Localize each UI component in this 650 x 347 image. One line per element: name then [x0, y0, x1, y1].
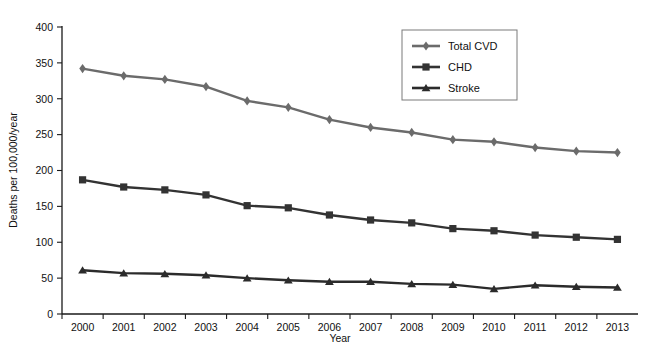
x-tick-label: 2010: [482, 321, 506, 333]
y-tick-label: 100: [35, 236, 53, 248]
data-point-marker: [203, 82, 210, 91]
data-point-marker: [161, 186, 168, 193]
data-point-marker: [285, 103, 292, 112]
data-point-marker: [244, 202, 251, 209]
x-tick-label: 2000: [71, 321, 95, 333]
data-point-marker: [614, 236, 621, 243]
x-tick-label: 2009: [441, 321, 465, 333]
x-tick-label: 2005: [277, 321, 301, 333]
y-tick-label: 200: [35, 164, 53, 176]
y-tick-label: 50: [41, 272, 53, 284]
data-point-marker: [120, 183, 127, 190]
data-point-marker: [450, 135, 457, 144]
series-chd: [79, 176, 621, 243]
series-stroke: [78, 266, 622, 292]
data-point-marker: [79, 64, 86, 73]
data-point-marker: [449, 225, 456, 232]
data-point-marker: [367, 216, 374, 223]
data-point-marker: [491, 137, 498, 146]
data-series-group: [78, 64, 622, 292]
x-tick-label: 2004: [235, 321, 259, 333]
data-point-marker: [285, 204, 292, 211]
data-point-marker: [244, 96, 251, 105]
data-point-marker: [79, 176, 86, 183]
y-tick-label: 350: [35, 57, 53, 69]
x-tick-label: 2012: [565, 321, 589, 333]
y-tick-label: 400: [35, 21, 53, 33]
legend-label: Total CVD: [448, 40, 498, 52]
data-point-marker: [408, 128, 415, 137]
series-total-cvd: [79, 64, 620, 157]
data-point-marker: [573, 147, 580, 156]
x-tick-label: 2002: [153, 321, 177, 333]
data-point-marker: [490, 227, 497, 234]
data-point-marker: [326, 211, 333, 218]
series-line: [83, 69, 618, 153]
legend-label: Stroke: [448, 82, 480, 94]
x-axis: 2000200120022003200420052006200720082009…: [62, 314, 638, 333]
x-tick-label: 2003: [194, 321, 218, 333]
x-tick-label: 2013: [606, 321, 630, 333]
legend-label: CHD: [448, 61, 472, 73]
x-tick-label: 2008: [400, 321, 424, 333]
x-tick-label: 2007: [359, 321, 383, 333]
data-point-marker: [162, 75, 169, 84]
data-point-marker: [532, 143, 539, 152]
y-axis: 050100150200250300350400: [35, 21, 62, 320]
data-point-marker: [367, 123, 374, 132]
data-point-marker: [573, 234, 580, 241]
y-tick-label: 250: [35, 128, 53, 140]
y-tick-label: 0: [47, 308, 53, 320]
data-point-marker: [120, 71, 127, 80]
y-tick-label: 150: [35, 200, 53, 212]
y-axis-title: Deaths per 100,000/year: [7, 112, 19, 228]
y-tick-label: 300: [35, 93, 53, 105]
x-tick-label: 2001: [112, 321, 136, 333]
chart-canvas: 050100150200250300350400 200020012002200…: [0, 0, 650, 347]
data-point-marker: [408, 219, 415, 226]
data-point-marker: [532, 231, 539, 238]
data-point-marker: [614, 148, 621, 157]
x-tick-label: 2011: [524, 321, 547, 333]
data-point-marker: [202, 191, 209, 198]
data-point-marker: [326, 115, 333, 124]
x-axis-title: Year: [329, 332, 351, 344]
legend-marker-icon: [422, 63, 429, 70]
chart-legend: Total CVDCHDStroke: [402, 30, 517, 100]
line-chart: 050100150200250300350400 200020012002200…: [0, 0, 650, 347]
